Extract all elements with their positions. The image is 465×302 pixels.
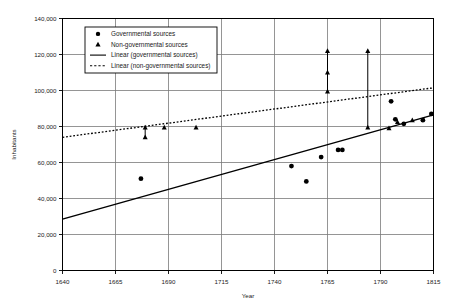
legend-label: Linear (governmental sources) (111, 51, 198, 59)
chart-legend: Governmental sourcesNon-governmental sou… (85, 27, 217, 73)
x-tick-label: 1665 (109, 278, 123, 285)
y-tick-label: 140,000 (34, 15, 57, 22)
x-tick-label: 1790 (374, 278, 388, 285)
x-tick-label: 1690 (162, 278, 176, 285)
x-tick-label: 1715 (215, 278, 229, 285)
data-point-nongovernmental (194, 125, 199, 130)
legend-label: Linear (non-governmental sources) (111, 62, 210, 70)
x-axis-tick-labels: 16401665169017151740176517901815 (56, 278, 441, 285)
y-tick-label: 20,000 (38, 231, 57, 238)
legend-label: Non-governmental sources (111, 41, 188, 49)
data-point-nongovernmental (325, 89, 330, 94)
y-tick-label: 0 (53, 267, 57, 274)
x-tick-label: 1640 (56, 278, 70, 285)
x-tick-label: 1815 (427, 278, 441, 285)
scatter-plot: 020,00040,00060,00080,000100,000120,0001… (0, 0, 465, 302)
data-point-governmental (340, 148, 345, 153)
y-tick-label: 100,000 (34, 87, 57, 94)
legend-label: Governmental sources (111, 30, 175, 37)
y-axis-title: Inhabitants (10, 129, 17, 159)
chart-container: 020,00040,00060,00080,000100,000120,0001… (0, 0, 465, 302)
data-point-nongovernmental (143, 135, 148, 140)
data-point-governmental (319, 155, 324, 160)
data-point-nongovernmental (325, 48, 330, 53)
trendline-gov (63, 115, 434, 219)
data-point-governmental (139, 176, 144, 181)
data-point-governmental (421, 118, 426, 123)
y-tick-label: 80,000 (38, 123, 57, 130)
data-point-governmental (389, 99, 394, 104)
data-point-nongovernmental (325, 70, 330, 75)
data-point-nongovernmental (365, 125, 370, 130)
data-point-governmental (289, 164, 294, 169)
x-tick-label: 1765 (321, 278, 335, 285)
y-tick-label: 40,000 (38, 195, 57, 202)
data-point-governmental (401, 121, 406, 126)
data-point-nongovernmental (365, 48, 370, 53)
x-axis-title: Year (242, 292, 255, 299)
trendlines (63, 88, 434, 219)
data-point-governmental (336, 148, 341, 153)
y-axis-tick-labels: 020,00040,00060,00080,000100,000120,0001… (34, 15, 57, 274)
legend-circle-icon (96, 32, 100, 36)
data-point-governmental (429, 112, 434, 117)
data-point-nongovernmental (162, 125, 167, 130)
x-tick-label: 1740 (268, 278, 282, 285)
y-tick-label: 120,000 (34, 51, 57, 58)
y-tick-label: 60,000 (38, 159, 57, 166)
data-point-nongovernmental (143, 125, 148, 130)
data-point-governmental (304, 179, 309, 184)
